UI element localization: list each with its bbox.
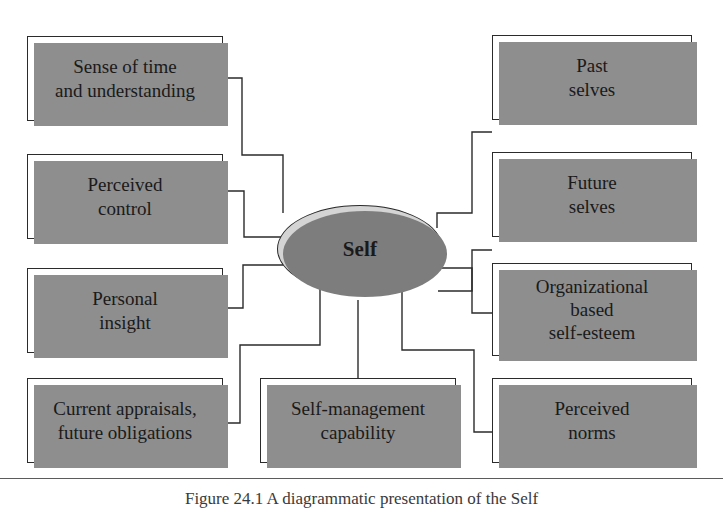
- node-self-management[interactable]: Self-management capability: [260, 378, 456, 463]
- node-past-selves[interactable]: Past selves: [492, 35, 692, 120]
- node-label: Self-management capability: [291, 397, 425, 443]
- footer-divider: [0, 478, 723, 479]
- node-perceived-control[interactable]: Perceived control: [27, 154, 223, 239]
- node-label: Organizational based self-esteem: [536, 275, 649, 345]
- node-label: Past selves: [569, 54, 615, 100]
- node-current-appraisals[interactable]: Current appraisals, future obligations: [27, 378, 223, 463]
- connector-past-selves: [437, 132, 492, 228]
- node-sense-of-time[interactable]: Sense of time and understanding: [27, 36, 223, 121]
- node-perceived-norms[interactable]: Perceived norms: [492, 378, 692, 463]
- connector-personal-insight: [222, 250, 283, 308]
- figure-caption: Figure 24.1 A diagrammatic presentation …: [0, 489, 723, 509]
- hub-label: Self: [343, 237, 378, 262]
- node-label: Perceived control: [88, 173, 163, 219]
- node-label: Sense of time and understanding: [55, 55, 195, 101]
- node-label: Personal insight: [92, 287, 157, 333]
- node-organizational-based[interactable]: Organizational based self-esteem: [492, 263, 692, 356]
- node-label: Future selves: [567, 171, 617, 217]
- node-future-selves[interactable]: Future selves: [492, 152, 692, 237]
- hub-self: Self: [277, 205, 443, 293]
- connector-perceived-control: [222, 191, 281, 237]
- node-label: Perceived norms: [555, 397, 630, 443]
- node-personal-insight[interactable]: Personal insight: [27, 268, 223, 353]
- connector-sense-of-time: [222, 78, 283, 213]
- node-label: Current appraisals, future obligations: [53, 397, 197, 443]
